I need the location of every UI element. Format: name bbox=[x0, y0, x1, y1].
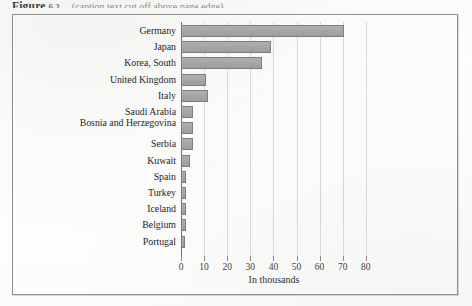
x-tick-60 bbox=[320, 256, 321, 261]
category-label: Bosnia and Herzegovina bbox=[26, 118, 176, 127]
x-tick-50 bbox=[297, 256, 298, 261]
bar bbox=[181, 90, 208, 102]
bar-row: Kuwait bbox=[0, 155, 472, 171]
bar-row: Portugal bbox=[0, 236, 472, 252]
bar-row: Bosnia and Herzegovina bbox=[0, 122, 472, 138]
bar-row: Korea, South bbox=[0, 57, 472, 73]
x-tick-10 bbox=[204, 256, 205, 261]
bar bbox=[181, 106, 193, 118]
bar bbox=[181, 74, 206, 86]
category-label: United Kingdom bbox=[26, 75, 176, 85]
bar bbox=[181, 138, 193, 150]
bar bbox=[181, 155, 190, 167]
bar bbox=[181, 171, 186, 183]
x-tick-20 bbox=[227, 256, 228, 261]
category-label: Korea, South bbox=[26, 58, 176, 68]
category-label: Kuwait bbox=[26, 156, 176, 166]
category-label: Germany bbox=[26, 26, 176, 36]
x-tick-80 bbox=[366, 256, 367, 261]
x-tick-label-80: 80 bbox=[351, 262, 381, 272]
bar bbox=[181, 25, 344, 37]
figure-page: Figure6.2(caption text cut off above pag… bbox=[0, 0, 472, 306]
bar bbox=[181, 122, 193, 134]
bar-row: Turkey bbox=[0, 187, 472, 203]
x-axis-title: In thousands bbox=[181, 274, 367, 285]
category-label: Iceland bbox=[26, 204, 176, 214]
category-label: Italy bbox=[26, 91, 176, 101]
bar-row: Japan bbox=[0, 41, 472, 57]
category-label: Turkey bbox=[26, 188, 176, 198]
category-label: Japan bbox=[26, 42, 176, 52]
category-label: Portugal bbox=[26, 237, 176, 247]
bar-row: Belgium bbox=[0, 219, 472, 235]
x-tick-40 bbox=[273, 256, 274, 261]
bar-row: Spain bbox=[0, 171, 472, 187]
category-label: Spain bbox=[26, 172, 176, 182]
category-label: Saudi Arabia bbox=[26, 107, 176, 117]
bar bbox=[181, 236, 185, 248]
bar-row: Iceland bbox=[0, 203, 472, 219]
bar-row: Germany bbox=[0, 25, 472, 41]
bar bbox=[181, 41, 271, 53]
category-label: Belgium bbox=[26, 220, 176, 230]
x-tick-30 bbox=[250, 256, 251, 261]
bar bbox=[181, 57, 262, 69]
bar bbox=[181, 219, 186, 231]
x-tick-0 bbox=[181, 256, 182, 261]
category-label: Serbia bbox=[26, 139, 176, 149]
x-tick-70 bbox=[343, 256, 344, 261]
bar bbox=[181, 203, 186, 215]
bar-chart-plot: 01020304050607080In thousandsGermanyJapa… bbox=[0, 0, 472, 306]
bar-row: United Kingdom bbox=[0, 74, 472, 90]
bar-row: Italy bbox=[0, 90, 472, 106]
bar-row: Serbia bbox=[0, 138, 472, 154]
bar bbox=[181, 187, 186, 199]
